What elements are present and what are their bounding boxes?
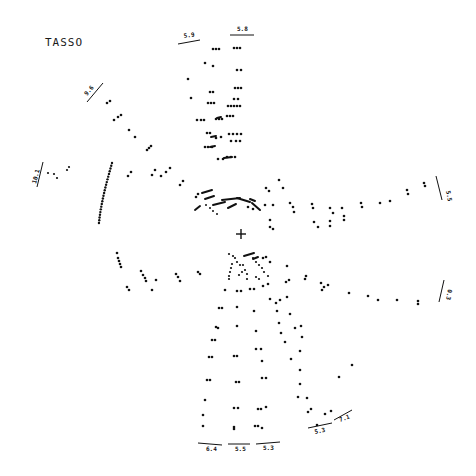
hit-point <box>196 119 199 122</box>
hit-point <box>237 98 240 101</box>
hit-point <box>204 399 207 402</box>
hit-point <box>228 133 231 136</box>
hit-point <box>233 105 236 108</box>
hit-point <box>261 427 264 430</box>
hit-point <box>255 276 257 278</box>
hit-point <box>320 282 323 285</box>
hit-point <box>240 69 243 72</box>
track-top-label: 5.8 <box>237 25 248 32</box>
hit-point <box>204 62 207 65</box>
hit-point <box>208 356 211 359</box>
hit-point <box>214 339 217 342</box>
hit-point <box>289 313 292 316</box>
hit-point <box>68 166 70 168</box>
hit-point <box>262 257 265 260</box>
hit-point <box>307 411 310 414</box>
hit-point <box>210 102 213 105</box>
hit-point <box>236 133 239 136</box>
hit-point <box>343 215 346 218</box>
hit-point <box>215 48 218 51</box>
hit-point <box>280 332 283 335</box>
hit-point <box>236 325 239 328</box>
hit-point <box>343 219 346 222</box>
hit-point <box>396 299 399 302</box>
hit-point <box>237 87 240 90</box>
hit-point <box>128 289 131 292</box>
hit-segment <box>224 157 232 158</box>
track-upper-left-label: 5.9 <box>183 30 195 38</box>
hit-point <box>106 178 108 180</box>
hit-point <box>278 322 281 325</box>
hit-point <box>218 48 221 51</box>
hit-point <box>154 169 157 172</box>
hit-point <box>151 174 154 177</box>
hit-point <box>260 408 263 411</box>
hit-point <box>265 406 268 409</box>
hit-point <box>305 275 308 278</box>
hit-point <box>269 261 272 264</box>
hit-point <box>348 292 351 295</box>
hit-segment <box>195 206 200 210</box>
hit-point <box>109 170 111 172</box>
track-bottom-center-label: 5.5 <box>235 445 246 452</box>
hit-point <box>100 205 102 207</box>
hit-point <box>313 221 316 224</box>
hit-point <box>306 397 309 400</box>
track-bottom-left-label: 6.4 <box>206 445 217 452</box>
hit-point <box>265 377 268 380</box>
track-bottom-right-label: 5.3 <box>263 444 274 451</box>
hit-point <box>228 275 230 277</box>
hit-segment <box>244 253 254 256</box>
hit-point <box>244 269 246 271</box>
hit-point <box>284 341 287 344</box>
hit-point <box>275 302 278 305</box>
hit-point <box>169 167 172 170</box>
hit-point <box>234 156 237 159</box>
hit-point <box>102 195 104 197</box>
hit-point <box>113 119 116 122</box>
hit-point <box>233 47 236 50</box>
hit-point <box>239 140 242 143</box>
hit-point <box>142 274 145 277</box>
hit-point <box>261 377 264 380</box>
hit-point <box>150 145 153 148</box>
hit-point <box>104 186 106 188</box>
hit-point <box>233 407 236 410</box>
hit-point <box>56 177 58 179</box>
hit-point <box>224 289 227 292</box>
hit-point <box>255 348 258 351</box>
hit-point <box>233 428 236 431</box>
hit-point <box>221 307 224 310</box>
hit-point <box>108 173 110 175</box>
hit-point <box>330 410 333 413</box>
hit-point <box>292 206 295 209</box>
hit-point <box>155 279 158 282</box>
hit-point <box>234 257 236 259</box>
hit-segment <box>211 136 216 137</box>
hit-point <box>312 207 315 210</box>
hit-point <box>145 280 148 283</box>
hit-point <box>279 299 282 302</box>
hit-point <box>216 213 218 215</box>
hit-point <box>197 193 200 196</box>
hit-point <box>300 325 303 328</box>
vertex-marker <box>236 229 246 239</box>
hit-point <box>99 214 101 216</box>
hit-point <box>228 278 230 280</box>
hit-point <box>423 182 426 185</box>
hit-point <box>209 91 212 94</box>
hit-point <box>200 119 203 122</box>
hit-point <box>417 300 420 303</box>
hit-point <box>207 102 210 105</box>
hit-point <box>268 190 271 193</box>
hit-point <box>116 252 119 255</box>
hit-point <box>226 115 229 118</box>
hit-point <box>98 216 100 218</box>
hit-point <box>289 202 292 205</box>
hit-point <box>293 211 296 214</box>
hit-point <box>206 132 209 135</box>
event-display: 5.95.89.610.15.50.36.45.55.35.37.1 <box>0 0 476 476</box>
hit-point <box>269 298 272 301</box>
hit-point <box>187 78 190 81</box>
hit-point <box>406 189 409 192</box>
